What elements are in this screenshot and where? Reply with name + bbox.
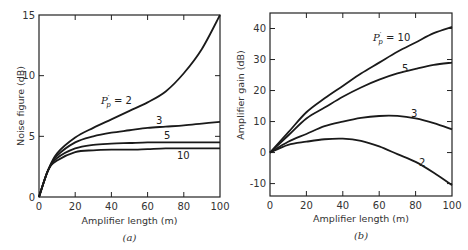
y-tick-label: 0 bbox=[29, 192, 35, 203]
x-axis-label-a: Amplifier length (m) bbox=[82, 215, 178, 226]
curve-p-p-2 bbox=[39, 15, 220, 197]
x-tick-label: 40 bbox=[336, 200, 349, 211]
x-tick-label: 80 bbox=[409, 200, 422, 211]
x-tick-label: 0 bbox=[36, 201, 42, 212]
x-tick-label: 60 bbox=[141, 201, 154, 212]
y-axis-label-b: Amplifier gain (dB) bbox=[235, 50, 246, 139]
y-tick-label: 5 bbox=[29, 131, 35, 142]
curve-label-a-p3: 3 bbox=[156, 115, 162, 126]
x-tick-label: 20 bbox=[69, 201, 82, 212]
y-axis-label-a: Noise figure (dB) bbox=[15, 66, 26, 146]
y-tick-label: 0 bbox=[260, 147, 266, 158]
x-tick-label: 40 bbox=[105, 201, 118, 212]
plot-frame-b bbox=[270, 13, 452, 196]
curve-p-p-10 bbox=[39, 148, 220, 197]
curve-p-p-5 bbox=[270, 63, 452, 153]
curve-label-a-p5: 5 bbox=[164, 130, 170, 141]
curve-p-p-3 bbox=[39, 122, 220, 197]
x-axis-label-b: Amplifier length (m) bbox=[313, 213, 409, 224]
caption-a: (a) bbox=[123, 232, 137, 243]
curve-label-a-p10: 10 bbox=[177, 150, 190, 161]
y-tick-label: 15 bbox=[22, 10, 35, 21]
curve-p-p-10 bbox=[270, 27, 452, 153]
y-tick-label: 30 bbox=[253, 54, 266, 65]
plot-frame-a bbox=[39, 15, 220, 197]
curve-label-b-p2: 2 bbox=[419, 157, 425, 168]
x-tick-label: 0 bbox=[267, 200, 273, 211]
axis-ticks-a: 020406080100051015 bbox=[22, 10, 229, 213]
curves-a bbox=[39, 15, 220, 197]
axis-ticks-b: 020406080100-10010203040 bbox=[250, 13, 462, 211]
x-tick-label: 100 bbox=[210, 201, 229, 212]
figure: 020406080100051015 Noise figure (dB) Amp… bbox=[0, 0, 468, 250]
curve-label-a-p2: P′p = 2 bbox=[100, 94, 132, 109]
x-tick-label: 100 bbox=[442, 200, 461, 211]
y-tick-label: -10 bbox=[250, 178, 266, 189]
x-tick-label: 60 bbox=[373, 200, 386, 211]
x-tick-label: 20 bbox=[300, 200, 313, 211]
curve-label-b-p3: 3 bbox=[411, 108, 417, 119]
curve-label-b-p10: P′p = 10 bbox=[372, 31, 410, 46]
curve-label-b-p5: 5 bbox=[402, 63, 408, 74]
y-tick-label: 40 bbox=[253, 23, 266, 34]
y-tick-label: 10 bbox=[253, 116, 266, 127]
panel-b-amplifier-gain: 020406080100-10010203040 Amplifier gain … bbox=[235, 13, 462, 241]
caption-b: (b) bbox=[354, 230, 368, 241]
x-tick-label: 80 bbox=[177, 201, 190, 212]
panel-a-noise-figure: 020406080100051015 Noise figure (dB) Amp… bbox=[15, 10, 230, 244]
y-tick-label: 20 bbox=[253, 85, 266, 96]
